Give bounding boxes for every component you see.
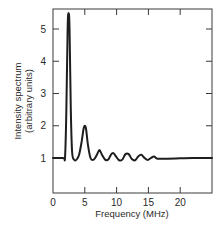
- y-tick-label: 1: [40, 153, 46, 164]
- y-tick-label: 5: [40, 24, 46, 35]
- x-tick-label: 5: [82, 197, 88, 208]
- x-tick-label: 20: [175, 197, 187, 208]
- x-axis-tick-labels: 05101520: [50, 197, 186, 208]
- plot-frame: [53, 9, 212, 193]
- x-axis-title: Frequency (MHz): [95, 208, 168, 219]
- y-axis-tick-labels: 12345: [40, 24, 46, 164]
- y-axis-ticks: [53, 29, 212, 158]
- intensity-spectrum-chart: 05101520 12345 Frequency (MHz) Intensity…: [0, 0, 223, 225]
- y-tick-label: 4: [40, 56, 46, 67]
- y-axis-title-line1: Intensity spectrum: [12, 62, 23, 139]
- spectrum-curve: [53, 13, 212, 161]
- y-axis-title: Intensity spectrum (arbitrary units): [12, 62, 34, 139]
- x-tick-label: 0: [50, 197, 56, 208]
- y-tick-label: 2: [40, 120, 46, 131]
- x-tick-label: 15: [143, 197, 155, 208]
- x-axis-ticks: [85, 9, 180, 193]
- y-axis-title-line2: (arbitrary units): [23, 69, 34, 133]
- y-tick-label: 3: [40, 88, 46, 99]
- x-tick-label: 10: [111, 197, 123, 208]
